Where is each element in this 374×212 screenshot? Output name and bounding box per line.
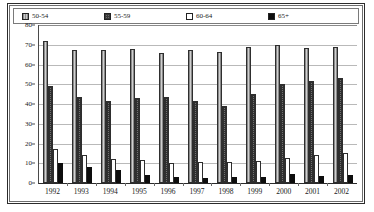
y-tick-mark [32,84,35,85]
bar-65-plus-1993[interactable] [87,167,92,183]
x-tick-label: 1993 [67,187,96,196]
y-tick-label: 80 [25,22,32,29]
legend-label-50-54: 50-54 [32,12,48,20]
legend-swatch-icon-50-54 [22,13,29,20]
bar-65-plus-1997[interactable] [203,178,208,183]
bar-group [328,25,357,183]
bar-group [126,25,155,183]
bar-65-plus-1995[interactable] [145,175,150,183]
x-tick-label: 1999 [240,187,269,196]
x-tick-label: 1998 [211,187,240,196]
plot-area [38,25,357,184]
bar-group [97,25,126,183]
x-tick-label: 2000 [269,187,298,196]
bar-group [184,25,213,183]
y-tick-label: 40 [25,101,32,108]
y-tick-label: 30 [25,120,32,127]
y-tick-label: 50 [25,81,32,88]
y-tick-mark [32,183,35,184]
plot-wrapper: 01020304050607080 1992199319941995199619… [13,25,359,200]
chart-frame: 50-54 55-59 60-64 65+ 01020304050607080 … [7,3,365,204]
bar-group [212,25,241,183]
legend-label-60-64: 60-64 [196,12,212,20]
x-tick-mark [96,183,97,186]
chart-legend: 50-54 55-59 60-64 65+ [13,8,359,24]
x-tick-label: 2002 [327,187,356,196]
x-tick-label: 2001 [298,187,327,196]
y-tick-label: 70 [25,41,32,48]
bar-group [68,25,97,183]
y-tick-mark [32,44,35,45]
y-tick-mark [32,123,35,124]
y-tick-label: 60 [25,61,32,68]
x-tick-mark [125,183,126,186]
legend-swatch-icon-55-59 [104,13,111,20]
legend-item-55-59[interactable]: 55-59 [104,12,186,20]
bar-65-plus-2001[interactable] [319,176,324,183]
y-tick-label: 20 [25,140,32,147]
x-tick-label: 1994 [96,187,125,196]
bar-group [299,25,328,183]
bar-65-plus-2000[interactable] [290,174,295,183]
y-tick-mark [32,163,35,164]
bar-group [270,25,299,183]
y-tick-mark [32,143,35,144]
x-tick-mark [154,183,155,186]
y-tick-label: 10 [25,160,32,167]
x-tick-label: 1997 [183,187,212,196]
bar-65-plus-1996[interactable] [174,177,179,183]
x-tick-mark [211,183,212,186]
legend-item-50-54[interactable]: 50-54 [22,12,104,20]
legend-label-55-59: 55-59 [114,12,130,20]
bar-65-plus-2002[interactable] [348,175,353,183]
bar-65-plus-1994[interactable] [116,170,121,183]
legend-swatch-icon-65-plus [268,13,275,20]
bar-65-plus-1999[interactable] [261,177,266,183]
bar-group [155,25,184,183]
y-tick-mark [32,104,35,105]
bar-groups [39,25,357,183]
legend-item-65-plus[interactable]: 65+ [268,12,350,20]
x-tick-mark [327,183,328,186]
bar-65-plus-1992[interactable] [58,163,63,183]
x-tick-mark [67,183,68,186]
y-axis: 01020304050607080 [13,25,35,183]
bar-group [39,25,68,183]
x-tick-label: 1992 [38,187,67,196]
x-tick-label: 1996 [154,187,183,196]
bar-group [241,25,270,183]
x-tick-mark [298,183,299,186]
x-axis: 1992199319941995199619971998199920002001… [38,187,356,196]
bar-65-plus-1998[interactable] [232,177,237,183]
x-tick-mark [269,183,270,186]
legend-swatch-icon-60-64 [186,13,193,20]
x-tick-mark [240,183,241,186]
y-tick-mark [32,25,35,26]
x-tick-mark [183,183,184,186]
legend-label-65-plus: 65+ [278,12,289,20]
y-tick-mark [32,64,35,65]
x-tick-label: 1995 [125,187,154,196]
legend-item-60-64[interactable]: 60-64 [186,12,268,20]
